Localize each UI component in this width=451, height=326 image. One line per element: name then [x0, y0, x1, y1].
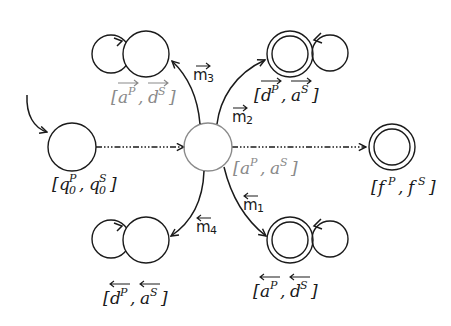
bracket: [	[254, 85, 261, 105]
label-m4: m 4	[196, 215, 217, 237]
label-m2: m 2	[232, 105, 253, 127]
comma: ,	[79, 174, 84, 194]
state-label-sub: 0	[99, 184, 106, 197]
m-label: m	[243, 196, 258, 214]
bracket: [	[233, 158, 240, 178]
state-label-sup: P	[387, 175, 396, 188]
state-label-symbol: f	[406, 177, 417, 197]
state-final	[369, 124, 415, 170]
bracket: ]	[168, 87, 176, 107]
m-index: 2	[246, 114, 253, 127]
state-final-inner	[374, 129, 410, 165]
bracket: [	[371, 177, 378, 197]
state-label-symbol: a	[240, 158, 250, 178]
m-label: m	[193, 66, 208, 84]
comma: ,	[130, 288, 135, 308]
bracket: ]	[290, 158, 298, 178]
bracket: ]	[109, 174, 117, 194]
automaton-diagram: m 3 m 2 m 4 m 1 [qP0,qS0][aP,aS][aP,dS][…	[0, 0, 451, 326]
label-m1: m 1	[243, 193, 264, 215]
state-label-sup: S	[150, 286, 158, 299]
comma: ,	[260, 158, 265, 178]
comma: ,	[138, 87, 143, 107]
state-label-sup: P	[270, 83, 279, 96]
state-label-sup: S	[300, 279, 308, 292]
state-label-symbol: f	[376, 177, 387, 197]
state-label-symbol: a	[291, 85, 301, 105]
bracket: [	[253, 281, 260, 301]
state-center	[184, 123, 232, 171]
state-bottom-right-inner	[272, 222, 308, 258]
state-label-symbol: a	[140, 288, 150, 308]
comma: ,	[280, 281, 285, 301]
initial-arrow	[27, 95, 47, 132]
bracket: [	[52, 174, 59, 194]
state-label-sup: S	[158, 85, 166, 98]
state-label-symbol: a	[260, 281, 270, 301]
m-label: m	[196, 218, 211, 236]
bracket: ]	[311, 85, 319, 105]
state-bottom-right	[267, 217, 313, 263]
state-top-left	[123, 31, 169, 77]
state-label-symbol: a	[118, 87, 128, 107]
bracket: [	[111, 87, 118, 107]
m-index: 1	[257, 202, 264, 215]
self-loop-arrowhead	[114, 223, 122, 231]
comma: ,	[281, 85, 286, 105]
state-label-symbol: a	[270, 158, 280, 178]
state-label-sup: P	[127, 85, 136, 98]
state-label-sup: S	[301, 83, 309, 96]
m-index: 4	[210, 224, 217, 237]
self-loop-top-right	[312, 35, 348, 71]
state-top-right	[267, 31, 313, 77]
self-loop-arrowhead	[114, 38, 122, 46]
state-bottom-left	[123, 217, 169, 263]
state-label-sup: S	[280, 156, 288, 169]
state-top-right-inner	[272, 36, 308, 72]
bracket: ]	[310, 281, 318, 301]
state-label-sup: P	[249, 156, 258, 169]
bracket: ]	[428, 177, 436, 197]
state-label-sup: P	[269, 279, 278, 292]
comma: ,	[398, 177, 403, 197]
bracket: [	[103, 288, 110, 308]
m-label: m	[232, 108, 247, 126]
bracket: ]	[160, 288, 168, 308]
self-loop-bottom-right	[312, 221, 348, 257]
state-label-sub: 0	[69, 184, 76, 197]
state-init	[48, 123, 96, 171]
state-label-sup: S	[418, 175, 426, 188]
state-label-sup: P	[119, 286, 128, 299]
label-m3: m 3	[193, 63, 214, 85]
m-index: 3	[207, 72, 214, 85]
